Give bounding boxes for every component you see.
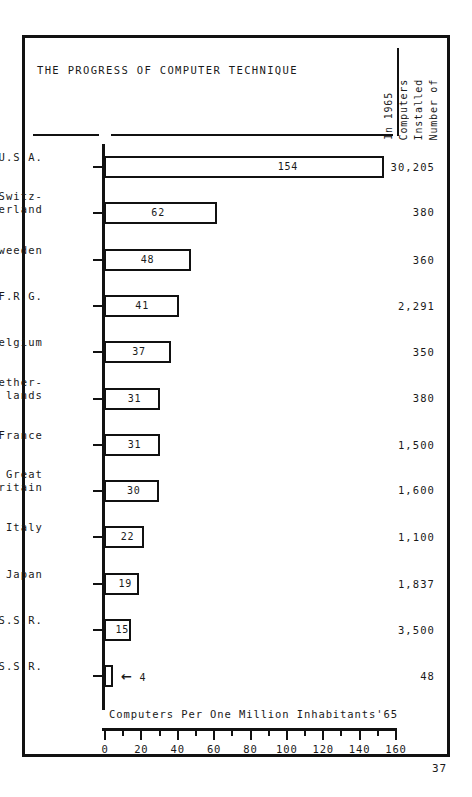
category-label: France bbox=[0, 429, 43, 442]
x-axis-tick-label: 140 bbox=[349, 743, 371, 755]
x-axis-minor-tick bbox=[122, 728, 124, 736]
bar-value-label: 62 bbox=[151, 207, 165, 218]
value-column-divider bbox=[397, 48, 399, 136]
installed-computers-value: 2,291 bbox=[325, 300, 435, 312]
table-row: U.S.A.15430,205 bbox=[25, 140, 447, 186]
bar-value-label: 4 bbox=[140, 672, 147, 683]
category-label: Belgium bbox=[0, 336, 43, 349]
value-column-header: Number of Installed Computers In 1965 bbox=[375, 44, 441, 140]
plot-area: U.S.A.15430,205Switz- erland62380Sweeden… bbox=[25, 136, 447, 754]
category-label: C.S.S.R. bbox=[0, 660, 43, 673]
installed-computers-value: 30,205 bbox=[325, 161, 435, 173]
bar-value-label: 30 bbox=[127, 485, 141, 496]
installed-computers-value: 1,837 bbox=[325, 578, 435, 590]
category-tick bbox=[93, 212, 103, 214]
category-tick bbox=[93, 398, 103, 400]
x-axis-major-tick bbox=[104, 728, 106, 740]
x-axis-tick-label: 40 bbox=[171, 743, 185, 755]
x-axis-tick-label: 120 bbox=[312, 743, 334, 755]
x-axis-tick-label: 100 bbox=[276, 743, 298, 755]
category-tick bbox=[93, 490, 103, 492]
bar-value-label: 19 bbox=[119, 578, 133, 589]
category-tick bbox=[93, 305, 103, 307]
x-axis-tick-label: 160 bbox=[385, 743, 407, 755]
value-column-header-line-1: Number of bbox=[426, 79, 441, 140]
x-axis-minor-tick bbox=[268, 728, 270, 736]
table-row: Switz- erland62380 bbox=[25, 186, 447, 232]
category-tick bbox=[93, 166, 103, 168]
category-tick bbox=[93, 675, 103, 677]
table-row: Japan191,837 bbox=[25, 557, 447, 603]
x-axis-tick-label: 0 bbox=[101, 743, 108, 755]
x-axis-major-tick bbox=[286, 728, 288, 740]
x-axis-major-tick bbox=[213, 728, 215, 740]
installed-computers-value: 1,500 bbox=[325, 439, 435, 451]
x-axis-minor-tick bbox=[231, 728, 233, 736]
bar-value-annotation: ← 4 bbox=[121, 669, 146, 684]
table-row: Sweeden48360 bbox=[25, 233, 447, 279]
x-axis-caption: Computers Per One Million Inhabitants'65 bbox=[109, 708, 398, 720]
value-column-header-line-2: Installed bbox=[411, 79, 426, 140]
chart-header: THE PROGRESS OF COMPUTER TECHNIQUE Numbe… bbox=[25, 38, 447, 136]
bar-value-label: 154 bbox=[278, 161, 298, 172]
table-row: U.S.S.R.153,500 bbox=[25, 603, 447, 649]
chart-page-frame: THE PROGRESS OF COMPUTER TECHNIQUE Numbe… bbox=[22, 35, 450, 757]
x-axis-minor-tick bbox=[377, 728, 379, 736]
category-label: F.R.G. bbox=[0, 290, 43, 303]
bar-value-label: 22 bbox=[121, 531, 135, 542]
category-tick bbox=[93, 351, 103, 353]
table-row: F.R.G.412,291 bbox=[25, 279, 447, 325]
category-tick bbox=[93, 583, 103, 585]
table-row: Great Britain301,600 bbox=[25, 464, 447, 510]
page-number: 37 bbox=[432, 762, 447, 775]
page-title: THE PROGRESS OF COMPUTER TECHNIQUE bbox=[37, 64, 298, 76]
x-axis-major-tick bbox=[322, 728, 324, 740]
bar-value-label: 31 bbox=[128, 393, 142, 404]
x-axis-major-tick bbox=[140, 728, 142, 740]
category-tick bbox=[93, 536, 103, 538]
category-label: U.S.A. bbox=[0, 151, 43, 164]
category-tick bbox=[93, 444, 103, 446]
category-label: Nether- lands bbox=[0, 376, 43, 402]
installed-computers-value: 380 bbox=[325, 206, 435, 218]
category-label: Japan bbox=[0, 568, 43, 581]
x-axis-major-tick bbox=[395, 728, 397, 740]
installed-computers-value: 48 bbox=[325, 670, 435, 682]
category-label: Sweeden bbox=[0, 244, 43, 257]
bar-value-label: 31 bbox=[128, 439, 142, 450]
installed-computers-value: 3,500 bbox=[325, 624, 435, 636]
bar-value-label: 48 bbox=[141, 254, 155, 265]
bar-value-label: 37 bbox=[132, 346, 146, 357]
table-row: France311,500 bbox=[25, 418, 447, 464]
category-label: Great Britain bbox=[0, 468, 43, 494]
table-row: Nether- lands31380 bbox=[25, 372, 447, 418]
x-axis-tick-label: 20 bbox=[134, 743, 148, 755]
installed-computers-value: 380 bbox=[325, 392, 435, 404]
category-label: Switz- erland bbox=[0, 190, 43, 216]
category-tick bbox=[93, 259, 103, 261]
installed-computers-value: 360 bbox=[325, 254, 435, 266]
left-arrow-icon: ← bbox=[121, 669, 133, 684]
x-axis-minor-tick bbox=[159, 728, 161, 736]
x-axis-major-tick bbox=[250, 728, 252, 740]
installed-computers-value: 350 bbox=[325, 346, 435, 358]
table-row: C.S.S.R.← 448 bbox=[25, 649, 447, 695]
x-axis-minor-tick bbox=[195, 728, 197, 736]
table-row: Italy221,100 bbox=[25, 510, 447, 556]
category-tick bbox=[93, 629, 103, 631]
bar-value-label: 41 bbox=[135, 300, 149, 311]
x-axis-major-tick bbox=[177, 728, 179, 740]
category-label: Italy bbox=[0, 521, 43, 534]
installed-computers-value: 1,100 bbox=[325, 531, 435, 543]
installed-computers-value: 1,600 bbox=[325, 484, 435, 496]
x-axis-tick-label: 60 bbox=[207, 743, 221, 755]
x-axis-minor-tick bbox=[304, 728, 306, 736]
category-label: U.S.S.R. bbox=[0, 614, 43, 627]
bar-value-label: 15 bbox=[115, 624, 129, 635]
table-row: Belgium37350 bbox=[25, 325, 447, 371]
x-axis-minor-tick bbox=[340, 728, 342, 736]
value-column-header-line-4: In 1965 bbox=[381, 92, 396, 140]
x-axis-tick-label: 80 bbox=[243, 743, 257, 755]
x-axis-major-tick bbox=[359, 728, 361, 740]
x-axis-line bbox=[102, 728, 395, 731]
